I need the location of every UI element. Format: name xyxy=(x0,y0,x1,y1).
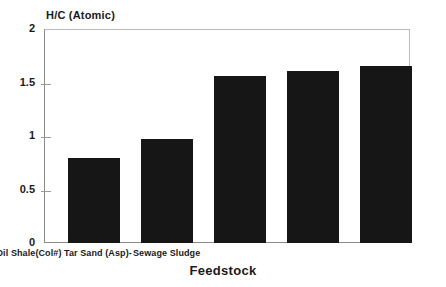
y-axis-title: H/C (Atomic) xyxy=(46,9,115,21)
bar-chart: H/C (Atomic) 00.511.52 Bit Coal (Pitt#8)… xyxy=(0,0,446,287)
x-axis-tick-label: Tar Sand (Asp)- xyxy=(64,248,132,258)
y-axis-tick-label: 0 xyxy=(29,236,35,248)
x-axis-tick-labels: Bit Coal (Pitt#8)Sub-bit (Wy)Oil Shale(C… xyxy=(0,248,446,262)
bar-series xyxy=(44,29,410,243)
y-axis-tick-label: 0.5 xyxy=(20,183,35,195)
y-axis-tick-label: 1.5 xyxy=(20,76,35,88)
bar xyxy=(141,139,193,243)
x-axis-tick-label: Oil Shale(Col#) xyxy=(0,248,62,258)
x-axis-tick-label: Sewage Sludge xyxy=(133,248,200,258)
bar xyxy=(214,76,266,243)
x-axis-title: Feedstock xyxy=(0,263,446,278)
y-axis-tick-label: 1 xyxy=(29,129,35,141)
bar xyxy=(360,66,412,243)
bar xyxy=(287,71,339,243)
y-axis-tick-label: 2 xyxy=(29,22,35,34)
bar xyxy=(68,158,120,243)
